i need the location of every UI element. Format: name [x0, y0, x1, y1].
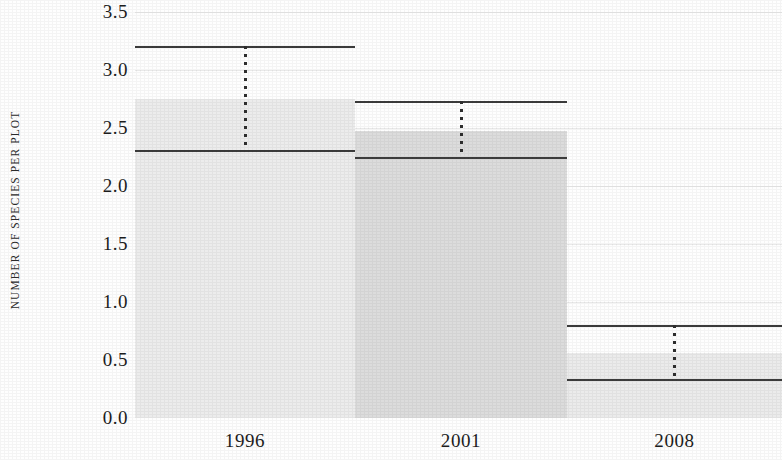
gridline	[135, 70, 782, 71]
plot-area: 199620012008	[135, 0, 782, 460]
error-bar-stem	[244, 46, 247, 150]
y-tick-label: 2.5	[66, 117, 128, 139]
y-axis-tick-labels: 0.00.51.01.52.02.53.03.5	[10, 0, 128, 460]
y-tick-label: 0.5	[66, 349, 128, 371]
y-tick-label: 3.0	[66, 59, 128, 81]
y-tick-label: 2.0	[66, 175, 128, 197]
error-bar-stem	[460, 101, 463, 157]
error-bar-mean-line	[135, 150, 355, 152]
chart-root: NUMBER OF SPECIES PER PLOT 0.00.51.01.52…	[0, 0, 782, 460]
x-tick-label: 2001	[441, 430, 481, 452]
y-tick-label: 0.0	[66, 407, 128, 429]
error-bar-stem	[673, 325, 676, 378]
error-bar-mean-line	[567, 379, 782, 381]
x-tick-label: 2008	[654, 430, 694, 452]
y-tick-label: 1.0	[66, 291, 128, 313]
gridline	[135, 12, 782, 13]
y-tick-label: 1.5	[66, 233, 128, 255]
error-bar-mean-line	[355, 157, 567, 159]
bar[interactable]	[355, 131, 567, 418]
x-tick-label: 1996	[225, 430, 265, 452]
y-tick-label: 3.5	[66, 1, 128, 23]
